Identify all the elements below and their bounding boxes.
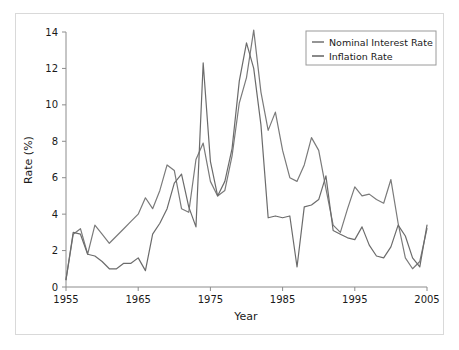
legend-label-1: Nominal Interest Rate	[329, 37, 433, 48]
data-series	[66, 30, 427, 280]
x-axis-ticks: 195519651975198519952005	[53, 287, 439, 305]
chart-figure: 02468101214 195519651975198519952005 Rat…	[0, 0, 459, 350]
x-tick-label: 1965	[125, 294, 150, 305]
y-tick-label: 12	[45, 63, 58, 74]
x-tick-label: 1995	[342, 294, 367, 305]
y-axis-ticks: 02468101214	[45, 27, 66, 293]
series-line-1	[66, 30, 427, 280]
y-tick-label: 4	[52, 209, 58, 220]
y-axis-title: Rate (%)	[22, 136, 35, 184]
x-tick-label: 2005	[414, 294, 439, 305]
x-axis-title: Year	[233, 310, 258, 323]
y-tick-label: 6	[52, 172, 58, 183]
legend-label-2: Inflation Rate	[329, 51, 393, 62]
chart-legend: Nominal Interest RateInflation Rate	[306, 31, 436, 65]
x-tick-label: 1955	[53, 294, 78, 305]
line-chart: 02468101214 195519651975198519952005 Rat…	[0, 0, 459, 350]
x-tick-label: 1985	[270, 294, 295, 305]
y-tick-label: 8	[52, 136, 58, 147]
y-tick-label: 2	[52, 245, 58, 256]
axes	[66, 32, 427, 287]
x-tick-label: 1975	[198, 294, 223, 305]
y-tick-label: 14	[45, 27, 58, 38]
y-tick-label: 0	[52, 282, 58, 293]
y-tick-label: 10	[45, 99, 58, 110]
